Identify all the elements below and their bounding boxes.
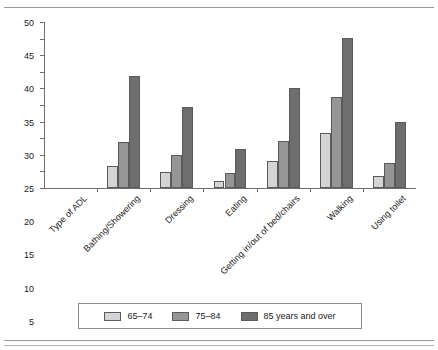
x-category-label: Using toilet xyxy=(370,194,408,232)
y-tick-mark: 0 xyxy=(40,188,44,189)
bar xyxy=(331,97,342,188)
x-tick-mark xyxy=(363,188,364,192)
y-tick-label: 20 xyxy=(24,218,34,227)
dark-gray-swatch xyxy=(241,312,258,321)
top-divider-rule xyxy=(4,7,434,8)
bar xyxy=(342,38,353,188)
bar xyxy=(395,122,406,188)
legend-label: 75–84 xyxy=(195,312,220,321)
y-tick-mark: 25 xyxy=(40,105,44,106)
bar xyxy=(235,149,246,189)
x-tick-mark xyxy=(150,188,151,192)
bar xyxy=(278,141,289,188)
x-tick-mark xyxy=(310,188,311,192)
y-tick-label: 45 xyxy=(24,52,34,61)
bar xyxy=(225,173,236,188)
plot-area: 05101520253035404550 xyxy=(44,22,416,188)
y-tick-label: 25 xyxy=(24,185,34,194)
bar xyxy=(320,133,331,188)
y-tick-mark: 10 xyxy=(40,155,44,156)
y-tick-label: 40 xyxy=(24,85,34,94)
x-tick-mark xyxy=(203,188,204,192)
x-axis-line xyxy=(44,188,416,189)
x-category-label: Eating xyxy=(224,194,248,218)
y-tick-label: 10 xyxy=(24,284,34,293)
bar xyxy=(214,181,225,188)
chart-figure: 05101520253035404550 Type of ADLBathing/… xyxy=(0,0,438,350)
y-tick-mark: 50 xyxy=(40,22,44,23)
y-tick-label: 15 xyxy=(24,251,34,260)
y-tick-mark: 20 xyxy=(40,122,44,123)
light-gray-swatch xyxy=(104,312,121,321)
y-tick-label: 5 xyxy=(29,317,34,326)
legend-label: 85 years and over xyxy=(264,312,336,321)
chart-legend: 65–7475–8485 years and over xyxy=(78,303,362,329)
x-category-label: Dressing xyxy=(164,194,195,225)
bar xyxy=(129,76,140,188)
legend-item: 85 years and over xyxy=(241,312,336,321)
medium-gray-swatch xyxy=(172,312,189,321)
bar xyxy=(171,155,182,188)
y-axis-line xyxy=(44,22,45,189)
bar xyxy=(384,163,395,188)
x-tick-mark xyxy=(257,188,258,192)
x-tick-mark xyxy=(97,188,98,192)
y-tick-mark: 40 xyxy=(40,55,44,56)
y-tick-label: 50 xyxy=(24,19,34,28)
x-category-label: Walking xyxy=(326,194,355,223)
bar xyxy=(160,172,171,188)
y-tick-label: 35 xyxy=(24,118,34,127)
bar xyxy=(182,107,193,188)
y-tick-mark: 15 xyxy=(40,138,44,139)
x-category-label: Bathing/Showering xyxy=(82,194,142,254)
legend-item: 65–74 xyxy=(104,312,152,321)
x-category-label: Type of ADL xyxy=(48,194,89,235)
bar xyxy=(373,176,384,188)
y-tick-mark: 30 xyxy=(40,88,44,89)
bottom-divider-rule-lower xyxy=(4,345,434,346)
bar xyxy=(267,161,278,188)
legend-item: 75–84 xyxy=(172,312,220,321)
bar xyxy=(118,142,129,188)
bar xyxy=(289,88,300,188)
bottom-divider-rule-upper xyxy=(4,340,434,341)
y-tick-label: 30 xyxy=(24,151,34,160)
y-tick-mark: 35 xyxy=(40,72,44,73)
y-tick-mark: 45 xyxy=(40,39,44,40)
legend-label: 65–74 xyxy=(127,312,152,321)
y-tick-mark: 5 xyxy=(40,171,44,172)
bar xyxy=(107,166,118,188)
